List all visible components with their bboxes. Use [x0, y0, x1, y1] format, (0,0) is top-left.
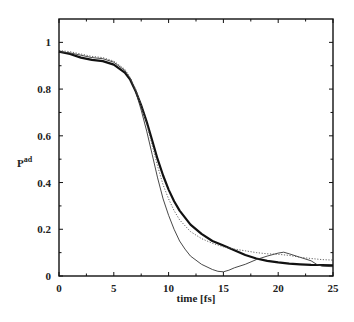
x-tick-label: 10 [163, 282, 175, 294]
series-thick-solid [59, 52, 333, 266]
y-axis-label-superscript: ad [24, 155, 33, 164]
y-tick-label: 0.8 [37, 83, 51, 95]
x-axis-label: time [fs] [177, 292, 216, 304]
y-tick-label: 1 [46, 36, 52, 48]
x-tick-label: 20 [273, 282, 285, 294]
x-tick-label: 0 [56, 282, 62, 294]
plot-frame [59, 19, 333, 276]
plot-lines [59, 51, 333, 272]
y-tick-label: 0 [46, 270, 52, 282]
line-chart: 0510152025 00.20.40.60.81 time [fs] Pad [0, 0, 354, 322]
y-tick-labels: 00.20.40.60.81 [37, 36, 51, 282]
x-tick-label: 5 [111, 282, 117, 294]
y-tick-label: 0.4 [37, 177, 51, 189]
axis-ticks [59, 19, 333, 276]
y-tick-label: 0.2 [37, 223, 51, 235]
x-tick-label: 15 [218, 282, 230, 294]
y-axis-label: Pad [17, 155, 33, 169]
series-thin-solid [59, 52, 333, 272]
y-tick-label: 0.6 [37, 130, 51, 142]
x-tick-label: 25 [328, 282, 340, 294]
